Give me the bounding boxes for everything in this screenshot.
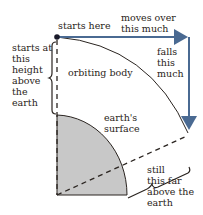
label-still-above: still this far above the earth — [147, 164, 194, 208]
label-moves-over: moves over this much — [121, 12, 176, 34]
label-start-height: starts at this height above the earth — [12, 42, 52, 108]
start-point — [54, 34, 60, 40]
label-earth-surface: earth's surface — [104, 112, 140, 134]
label-falls: falls this much — [157, 46, 184, 79]
label-starts-here: starts here — [58, 20, 111, 31]
label-orbiting-body: orbiting body — [68, 67, 133, 78]
